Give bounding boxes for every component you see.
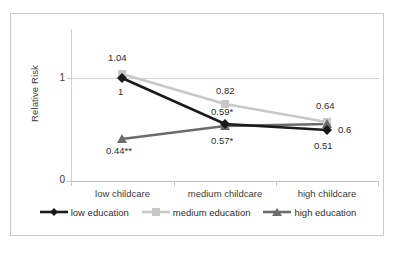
legend-label-high-education: high education <box>294 207 356 218</box>
legend-marker-square-icon <box>142 206 170 218</box>
data-label-high-2: 0.57* <box>211 135 233 146</box>
data-label-high-1: 0.44** <box>106 145 132 156</box>
plot-area: Relative Risk 1 0 low childcare medium c… <box>11 14 383 235</box>
legend-item-high-education[interactable]: high education <box>263 206 356 218</box>
legend-marker-triangle-icon <box>263 206 291 218</box>
chart-frame: Relative Risk 1 0 low childcare medium c… <box>10 13 384 236</box>
legend-label-low-education: low education <box>71 207 129 218</box>
series-layer <box>11 14 385 237</box>
legend-item-medium-education[interactable]: medium education <box>142 206 251 218</box>
data-label-medium-1: 1.04 <box>108 52 127 63</box>
chart-legend: low education medium education high educ… <box>11 206 385 218</box>
legend-marker-diamond-icon <box>40 206 68 218</box>
legend-item-low-education[interactable]: low education <box>40 206 129 218</box>
data-label-high-3: 0.6 <box>338 124 351 135</box>
data-label-low-2: 0.59* <box>211 106 233 117</box>
data-label-medium-3: 0.64 <box>316 100 335 111</box>
data-label-low-3: 0.51 <box>314 140 333 151</box>
data-label-low-1: 1 <box>118 86 123 97</box>
legend-label-medium-education: medium education <box>173 207 251 218</box>
data-label-medium-2: 0.82 <box>216 85 235 96</box>
